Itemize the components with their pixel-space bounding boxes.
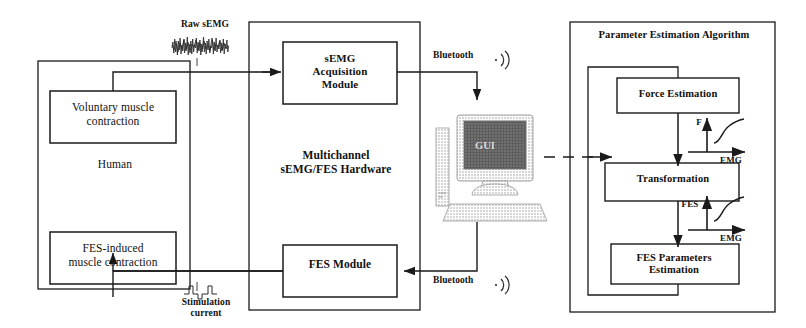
bluetooth-uplink-label: Bluetooth: [433, 50, 495, 61]
fes-module-label: FES Module: [287, 258, 393, 272]
force-plot-x-label: EMG: [714, 155, 748, 166]
raw-semg-label: Raw sEMG: [166, 19, 244, 30]
keyboard-icon: [443, 204, 547, 221]
mouse-icon: [472, 184, 518, 195]
stimulation-current-label: Stimulation current: [158, 297, 254, 319]
gui-screen-label: GUI: [463, 140, 507, 152]
bluetooth-signal-icon-top: [495, 51, 509, 69]
force-plot-y-label: F: [692, 117, 706, 128]
semg-acquisition-label: sEMG Acquisition Module: [287, 52, 393, 91]
fes-plot-x-label: EMG: [714, 233, 748, 244]
transformation-label: Transformation: [614, 173, 732, 185]
force-estimation-label: Force Estimation: [623, 88, 733, 100]
block-diagram: Raw sEMG Stimulation current Voluntary m…: [0, 0, 806, 328]
tower-icon: [436, 128, 449, 206]
raw-semg-waveform: [172, 37, 229, 55]
human-label: Human: [55, 158, 175, 172]
fes-plot-y-label: FES: [677, 199, 703, 210]
fes-parameters-label: FES Parameters Estimation: [618, 252, 730, 277]
bluetooth-downlink-label: Bluetooth: [433, 275, 495, 286]
voluntary-contraction-label: Voluntary muscle contraction: [52, 101, 174, 128]
algorithm-title: Parameter Estimation Algorithm: [583, 29, 765, 41]
bluetooth-signal-icon-bottom: [495, 276, 509, 294]
hardware-label: Multichannel sEMG/FES Hardware: [270, 149, 402, 176]
fes-induced-contraction-label: FES-induced muscle contraction: [52, 242, 174, 269]
